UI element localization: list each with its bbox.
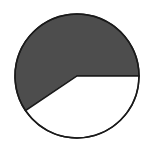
pie-chart-svg: [0, 0, 152, 145]
pie-chart: [0, 0, 152, 145]
